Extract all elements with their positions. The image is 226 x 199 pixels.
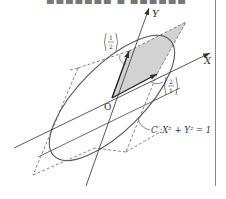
transformation-diagram: Y X O 1 2 2 1 C′:X² + Y² = 1: [0, 0, 226, 199]
vector-a-label: 1 2: [105, 33, 118, 51]
y-axis-label: Y: [152, 8, 160, 19]
y-axis: [86, 8, 149, 186]
curve-equation-label: C′:X² + Y² = 1: [151, 125, 211, 135]
diagram-canvas: ■■■■■■■ ■ ■■■■■■■■■■ ■■■■■■■: [0, 0, 226, 199]
svg-text:1: 1: [169, 87, 173, 94]
tangent-line: [38, 88, 180, 157]
x-axis-label: X: [203, 55, 212, 66]
svg-text:2: 2: [109, 43, 113, 50]
svg-text:2: 2: [169, 78, 173, 85]
shaded-region: [112, 22, 186, 98]
svg-text:1: 1: [109, 34, 113, 41]
origin-label: O: [104, 102, 111, 112]
